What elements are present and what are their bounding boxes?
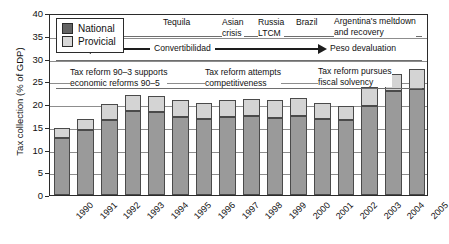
y-tick-mark-25 <box>45 82 49 83</box>
bar-segment-national-2005 <box>409 89 426 195</box>
y-tick-label-40: 40 <box>9 9 43 19</box>
y-tick-label-20: 20 <box>9 100 43 110</box>
bar-segment-national-1999 <box>267 118 284 195</box>
y-tick-label-10: 10 <box>9 146 43 156</box>
x-tick-label-2002: 2002 <box>358 200 379 221</box>
y-tick-mark-10 <box>45 151 49 152</box>
legend-item-provicial: Provicial <box>62 35 116 48</box>
x-tick-label-1993: 1993 <box>145 200 166 221</box>
bar-segment-provicial-2000 <box>290 98 307 116</box>
bar-segment-provicial-1996 <box>196 103 213 119</box>
bar-segment-provicial-1994 <box>148 96 165 112</box>
bar-segment-national-1993 <box>125 111 142 195</box>
legend-item-national: National <box>62 22 116 35</box>
legend-swatch-national <box>62 23 73 34</box>
bar-1993 <box>125 95 142 195</box>
bar-1995 <box>172 100 189 195</box>
bar-2003 <box>361 87 378 195</box>
bar-segment-provicial-1995 <box>172 100 189 116</box>
annotation-peso-devaluation: Peso devaluation <box>330 43 396 54</box>
x-tick-label-2004: 2004 <box>405 200 426 221</box>
tax-collection-stacked-bar-chart: Tax collection (% of GDP) 05101520253035… <box>0 0 449 244</box>
bar-segment-provicial-2003 <box>361 87 378 107</box>
bar-segment-national-2003 <box>361 106 378 195</box>
x-tick-label-1992: 1992 <box>121 200 142 221</box>
legend: National Provicial <box>56 18 124 53</box>
y-tick-mark-35 <box>45 37 49 38</box>
arrowhead-right-icon <box>318 44 327 54</box>
y-tick-mark-15 <box>45 128 49 129</box>
annotation-tax-reform-90-3: Tax reform 90–3 supports economic reform… <box>70 67 167 88</box>
bar-segment-national-2000 <box>290 116 307 195</box>
annotation-russia-ltcm: Russia LTCM <box>258 17 284 38</box>
bar-1999 <box>267 100 284 195</box>
bar-segment-national-2001 <box>314 119 331 195</box>
bar-2001 <box>314 103 331 195</box>
bar-1996 <box>196 103 213 195</box>
bar-segment-provicial-1999 <box>267 100 284 117</box>
bar-1992 <box>101 104 118 195</box>
x-tick-label-1998: 1998 <box>263 200 284 221</box>
bar-segment-provicial-1998 <box>243 99 260 116</box>
x-tick-label-1996: 1996 <box>216 200 237 221</box>
y-tick-label-0: 0 <box>9 191 43 201</box>
bar-segment-provicial-1991 <box>77 119 94 131</box>
y-tick-label-35: 35 <box>9 32 43 42</box>
x-tick-label-1991: 1991 <box>97 200 118 221</box>
rule-regime-row <box>56 60 422 61</box>
bar-2002 <box>338 106 355 195</box>
x-tick-label-2005: 2005 <box>429 200 449 221</box>
bar-1994 <box>148 96 165 195</box>
legend-label-provicial: Provicial <box>78 37 116 47</box>
bar-2004 <box>385 74 402 195</box>
bar-segment-national-2002 <box>338 120 355 195</box>
x-tick-label-2003: 2003 <box>382 200 403 221</box>
y-tick-mark-20 <box>45 105 49 106</box>
annotation-brazil: Brazil <box>296 17 318 28</box>
bar-segment-national-1995 <box>172 117 189 195</box>
annotation-tax-reform-fiscal-solvency: Tax reform pursues fiscal solvency <box>318 66 392 87</box>
bar-segment-national-1991 <box>77 130 94 195</box>
rule-reform-row <box>56 88 422 89</box>
bar-1997 <box>219 100 236 195</box>
y-tick-label-25: 25 <box>9 77 43 87</box>
x-tick-label-2001: 2001 <box>334 200 355 221</box>
annotation-tequila: Tequila <box>163 17 190 28</box>
x-tick-label-1994: 1994 <box>168 200 189 221</box>
bar-segment-national-1997 <box>219 117 236 195</box>
y-tick-mark-0 <box>45 196 49 197</box>
bar-1990 <box>54 128 71 195</box>
legend-label-national: National <box>78 24 115 34</box>
bar-segment-national-1992 <box>101 120 118 195</box>
bar-segment-national-1990 <box>54 138 71 195</box>
bar-segment-provicial-2005 <box>409 69 426 89</box>
x-tick-label-2000: 2000 <box>311 200 332 221</box>
y-tick-label-30: 30 <box>9 55 43 65</box>
y-tick-mark-5 <box>45 173 49 174</box>
bar-segment-provicial-1997 <box>219 100 236 117</box>
legend-swatch-provicial <box>62 36 73 47</box>
bar-segment-national-1994 <box>148 112 165 195</box>
y-tick-mark-40 <box>45 14 49 15</box>
bar-segment-national-1998 <box>243 116 260 195</box>
y-tick-label-5: 5 <box>9 168 43 178</box>
bar-segment-provicial-1993 <box>125 95 142 111</box>
bar-segment-national-1996 <box>196 119 213 195</box>
annotation-convertibilidad: Convertibilidad <box>150 43 215 54</box>
annotation-argentina-meltdown: Argentina's meltdown and recovery <box>334 16 416 37</box>
bar-segment-provicial-2002 <box>338 106 355 121</box>
bar-2000 <box>290 98 307 195</box>
x-tick-label-1995: 1995 <box>192 200 213 221</box>
y-tick-label-15: 15 <box>9 123 43 133</box>
x-tick-label-1999: 1999 <box>287 200 308 221</box>
annotation-asian-crisis: Asian crisis <box>222 17 244 38</box>
y-tick-mark-30 <box>45 60 49 61</box>
x-tick-label-1990: 1990 <box>74 200 95 221</box>
x-tick-label-1997: 1997 <box>240 200 261 221</box>
bar-segment-provicial-1990 <box>54 128 71 138</box>
bar-segment-national-2004 <box>385 91 402 195</box>
bar-segment-provicial-2001 <box>314 103 331 119</box>
annotation-tax-reform-competitiveness: Tax reform attempts competitiveness <box>205 67 281 88</box>
bar-1991 <box>77 119 94 195</box>
bar-1998 <box>243 99 260 195</box>
